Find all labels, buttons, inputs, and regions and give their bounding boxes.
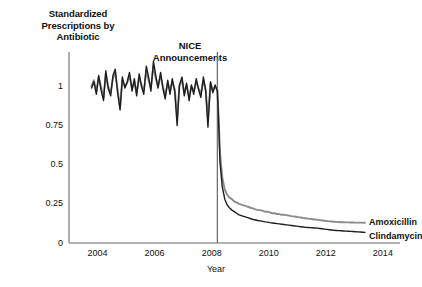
x-tick-label-2006: 2006: [135, 249, 175, 258]
series-label-clindamycin: Clindamycin: [369, 231, 422, 241]
x-tick-label-2012: 2012: [306, 249, 346, 258]
x-tick-label-2004: 2004: [78, 249, 118, 258]
y-tick-label-4: 1: [35, 82, 63, 91]
x-tick-label-2008: 2008: [192, 249, 232, 258]
x-axis-title: Year: [186, 264, 246, 274]
y-tick-label-0: 0: [35, 239, 63, 248]
y-tick-label-3: 0.75: [35, 121, 63, 130]
y-tick-label-2: 0.5: [35, 160, 63, 169]
x-tick-label-2010: 2010: [249, 249, 289, 258]
series-label-amoxicillin: Amoxicillin: [369, 217, 417, 227]
series-line-clindamycin: [92, 61, 365, 232]
y-tick-label-1: 0.25: [35, 199, 63, 208]
x-tick-label-2014: 2014: [363, 249, 403, 258]
